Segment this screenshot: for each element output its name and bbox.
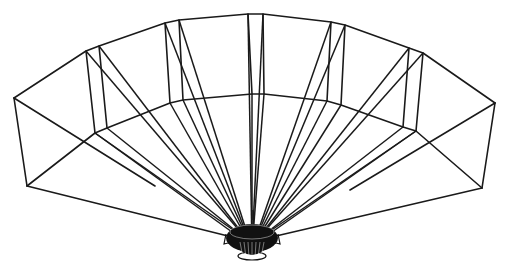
left-side-edge [14,98,27,186]
right-side-edge [482,103,495,188]
cable-inner-1 [107,128,235,230]
strut-7 [341,25,345,105]
cable-top-8 [260,25,345,228]
left-diagonal [14,98,155,186]
left-bottom-cable [27,186,228,236]
inner-arc-left-extension [27,133,95,186]
converging-cables [86,14,423,232]
cable-top-9 [266,48,409,228]
vertical-struts [86,14,423,133]
hub-assembly [224,210,280,260]
cable-top-10 [267,53,423,228]
cable-left-extra [95,133,232,232]
cable-top-4 [179,20,245,228]
cable-inner-3 [183,100,244,230]
inner-arc [27,94,482,188]
right-bottom-cable [276,188,482,236]
cable-top-1 [86,51,237,228]
cable-top-3 [165,23,244,228]
strut-8 [403,48,409,127]
cable-inner-8 [270,127,403,230]
wireframe-drawing [0,0,506,276]
strut-0 [86,51,95,133]
fan-structure-diagram [0,0,506,276]
strut-9 [416,53,423,131]
inner-arc-right-extension [416,131,482,188]
strut-1 [99,46,107,128]
